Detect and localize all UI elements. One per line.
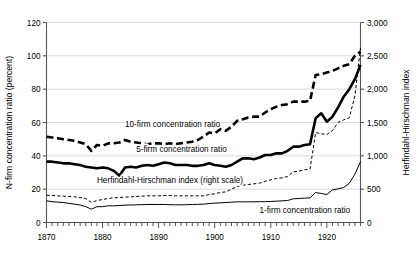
x-axis-tick-label-1870: 1870: [37, 233, 56, 242]
x-axis-tick-label-1880: 1880: [93, 233, 112, 242]
x-axis-tick-label-1900: 1900: [206, 233, 225, 242]
left-axis-title: N-firm concentration ratio (percent): [4, 56, 14, 189]
right-axis-tick-label-500: 500: [367, 185, 381, 194]
series-line-0: [47, 52, 361, 151]
right-axis-title: Herfindahl-Hirschman index: [401, 69, 411, 176]
concentration-chart-figure: 02040608010012005001,0001,5002,0002,5003…: [0, 0, 419, 260]
left-axis-tick-label-100: 100: [27, 52, 41, 61]
series-annotation-0: 10-firm concentration ratio: [125, 120, 221, 129]
right-axis-tick-label-0: 0: [367, 219, 372, 228]
x-axis-tick-label-1890: 1890: [150, 233, 169, 242]
chart-canvas: 02040608010012005001,0001,5002,0002,5003…: [0, 0, 419, 260]
x-axis-tick-label-1910: 1910: [262, 233, 281, 242]
right-axis-tick-label-3000: 3,000: [367, 19, 388, 28]
series-annotation-1: 5-firm concentration ratio: [136, 145, 227, 154]
x-axis-tick-label-1920: 1920: [318, 233, 337, 242]
right-axis-tick-label-1500: 1,500: [367, 119, 388, 128]
right-axis-tick-label-2000: 2,000: [367, 85, 388, 94]
series-annotation-3: 1-firm concentration ratio: [260, 206, 351, 215]
left-axis-tick-label-120: 120: [27, 19, 41, 28]
left-axis-tick-label-60: 60: [31, 119, 41, 128]
right-axis-tick-label-2500: 2,500: [367, 52, 388, 61]
series-annotation-2: Herfindahl-Hirschman index (right scale): [97, 176, 243, 185]
left-axis-tick-label-40: 40: [31, 152, 41, 161]
left-axis-tick-label-0: 0: [36, 219, 41, 228]
left-axis-tick-label-20: 20: [31, 185, 41, 194]
right-axis-tick-label-1000: 1,000: [367, 152, 388, 161]
left-axis-tick-label-80: 80: [31, 85, 41, 94]
